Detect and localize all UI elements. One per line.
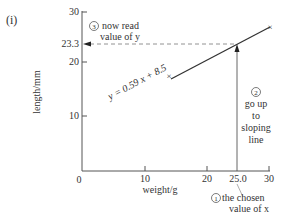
line-end-marker-right: × [267,22,272,32]
step3-line2: value of y [100,31,140,42]
line-end-marker-left: × [166,71,171,81]
step3-line1: now read [102,20,139,31]
x-axis-label: weight/g [143,184,178,195]
line-equation: y = 0.59 x + 8.5 [105,62,168,103]
y-axis-label: length/mm [31,70,42,114]
step2-line3: sloping [241,122,270,133]
y-tick-10: 10 [69,110,79,121]
step2-line4: line [249,134,265,145]
x-tick-20: 20 [202,173,212,184]
sloping-line [171,27,270,79]
graph: (i) 30 23.3 20 10 0 10 20 25.0 30 weight… [0,0,284,218]
x-tick-10: 10 [140,173,150,184]
figure-label: (i) [6,13,17,27]
step2-number: 2 [254,89,258,97]
arrow-left-icon [83,42,91,47]
x-tick-0: 0 [77,174,82,185]
step3-number: 3 [92,23,96,31]
step1-line2: value of x [229,203,269,214]
y-tick-20: 20 [69,56,79,67]
y-tick-23-3: 23.3 [62,38,80,49]
step2-line1: go up [245,98,268,109]
x-tick-25: 25.0 [229,173,247,184]
step2-line2: to [252,110,260,121]
step1-line1: the chosen [222,192,265,203]
y-tick-30: 30 [69,6,79,17]
step1-number: 1 [214,195,218,203]
x-tick-30: 30 [264,173,274,184]
